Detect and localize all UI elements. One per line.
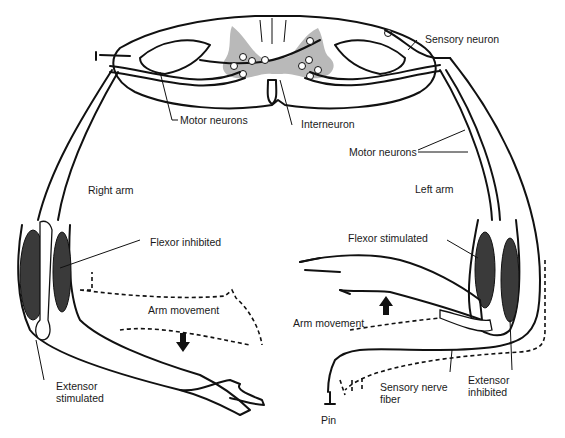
label-flexor-stimulated: Flexor stimulated <box>348 232 428 244</box>
label-extensor-inhibited-2: inhibited <box>468 386 507 398</box>
reflex-diagram <box>0 0 565 438</box>
label-flexor-inhibited: Flexor inhibited <box>150 236 221 248</box>
label-motor-neurons-left: Motor neurons <box>180 114 248 126</box>
spinal-cord <box>96 16 450 108</box>
up-arrow-icon <box>379 296 393 315</box>
label-right-arm: Right arm <box>88 184 134 196</box>
label-extensor-stimulated-1: Extensor <box>56 380 97 392</box>
label-sensory-nerve-fiber-2: fiber <box>380 393 400 405</box>
down-arrow-icon <box>176 333 190 352</box>
label-arm-movement-right: Arm movement <box>148 304 219 316</box>
label-extensor-inhibited-1: Extensor <box>468 374 509 386</box>
label-sensory-neuron: Sensory neuron <box>425 33 499 45</box>
label-sensory-nerve-fiber-1: Sensory nerve <box>380 381 448 393</box>
label-pin: Pin <box>321 414 336 426</box>
pin-icon <box>325 392 335 404</box>
label-motor-neurons-right: Motor neurons <box>349 146 417 158</box>
label-arm-movement-left: Arm movement <box>293 317 364 329</box>
label-left-arm: Left arm <box>415 183 454 195</box>
label-extensor-stimulated-2: stimulated <box>56 392 104 404</box>
label-interneuron: Interneuron <box>301 118 355 130</box>
